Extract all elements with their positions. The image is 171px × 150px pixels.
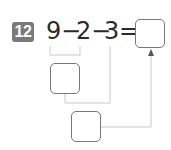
operand-2: 2 [76, 17, 91, 45]
operand-9: 9 [46, 17, 61, 45]
step1-box[interactable] [50, 63, 80, 94]
operand-3: 3 [104, 17, 119, 45]
step2-box[interactable] [71, 111, 101, 142]
answer-box[interactable] [135, 19, 165, 48]
problem-number-badge: 12 [12, 22, 34, 42]
